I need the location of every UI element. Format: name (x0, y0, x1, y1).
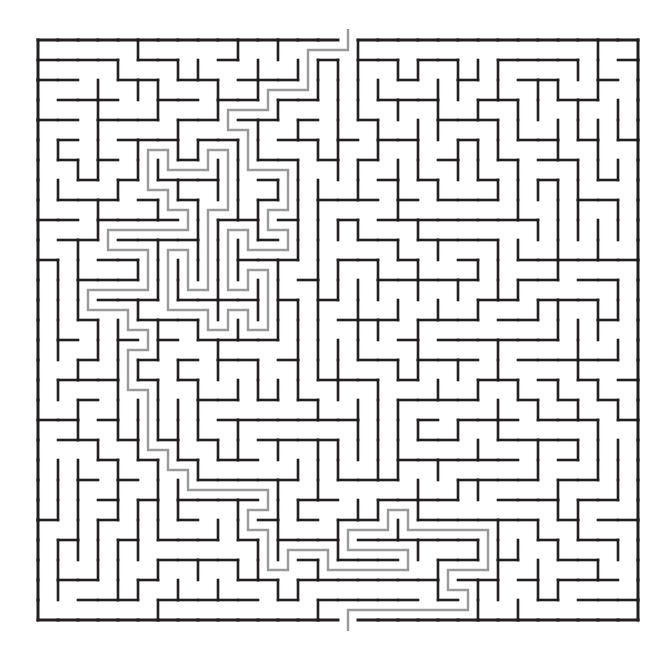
maze-page (0, 0, 659, 658)
maze-figure (0, 0, 659, 658)
